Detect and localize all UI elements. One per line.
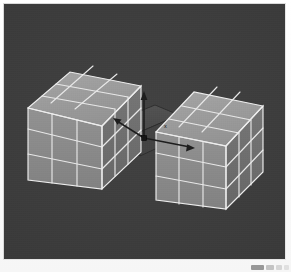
cube-left[interactable] [28, 66, 141, 189]
toolbar-chip-1[interactable] [251, 265, 264, 270]
viewport-frame[interactable]: x [3, 3, 286, 260]
axis-x-label: x [164, 123, 167, 129]
toolbar-chip-2[interactable] [266, 265, 274, 270]
toolbar-chip-3[interactable] [276, 265, 282, 270]
gizmo-origin-handle[interactable] [142, 136, 147, 141]
toolbar-chip-4[interactable] [284, 265, 289, 270]
screenshot-root: x [0, 0, 291, 272]
cube-right[interactable] [156, 87, 263, 209]
axis-z-arrowhead [141, 91, 148, 100]
perspective-viewport[interactable]: x [4, 4, 285, 259]
toolbar-fragment[interactable] [251, 264, 289, 271]
scene-canvas[interactable]: x [4, 4, 286, 260]
